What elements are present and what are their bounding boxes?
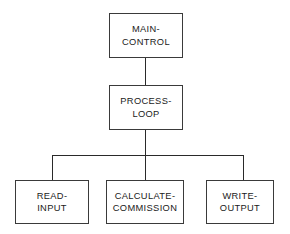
node-read-input[interactable]: READ- INPUT xyxy=(15,180,89,224)
connector-bus-to-read-input xyxy=(52,155,53,180)
node-write-output-line-2: OUTPUT xyxy=(220,202,260,215)
node-read-input-line-2: INPUT xyxy=(37,202,67,215)
node-process-loop-line-2: LOOP xyxy=(132,108,159,121)
connector-main-to-process xyxy=(145,58,146,85)
connector-bus-to-write-output xyxy=(243,155,244,180)
node-process-loop-line-1: PROCESS- xyxy=(120,95,171,108)
connector-process-to-bus xyxy=(145,130,146,155)
connector-child-bus xyxy=(52,155,244,156)
node-process-loop[interactable]: PROCESS- LOOP xyxy=(109,85,183,130)
node-main-control[interactable]: MAIN- CONTROL xyxy=(109,13,183,58)
node-main-control-line-2: CONTROL xyxy=(122,36,170,49)
node-calculate-commission-line-1: CALCULATE- xyxy=(115,190,176,203)
node-calculate-commission-line-2: COMMISSION xyxy=(113,202,177,215)
node-read-input-line-1: READ- xyxy=(37,190,68,203)
connector-bus-to-calculate-commission xyxy=(145,155,146,180)
node-calculate-commission[interactable]: CALCULATE- COMMISSION xyxy=(106,180,184,224)
node-write-output[interactable]: WRITE- OUTPUT xyxy=(206,180,274,224)
node-main-control-line-1: MAIN- xyxy=(132,23,160,36)
structure-chart-diagram: MAIN- CONTROL PROCESS- LOOP READ- INPUT … xyxy=(0,0,290,234)
node-write-output-line-1: WRITE- xyxy=(222,190,257,203)
